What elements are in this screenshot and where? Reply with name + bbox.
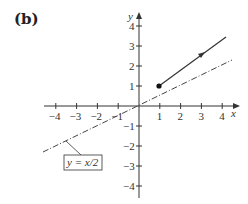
y-tick-label: −3 [123,160,135,172]
annotation-text: y = x/2 [66,156,99,168]
y-tick-label: −1 [123,120,135,132]
x-tick-label: 3 [198,110,204,122]
x-tick-label: −2 [90,110,102,122]
y-tick-label: −2 [123,140,135,152]
x-tick-label: 4 [219,110,225,122]
x-tick-label: −3 [70,110,82,122]
start-point-dot [156,83,161,88]
x-tick-label: 2 [178,110,184,122]
y-tick-label: −4 [123,180,135,192]
y-tick-label: 4 [129,20,135,32]
x-tick-label: 1 [157,110,163,122]
annotation-leader-line [66,141,81,155]
chart: x y −4−3−2−11234 4321−1−2−3−4 y = x/2 [0,0,248,204]
x-tick-label: −4 [49,110,61,122]
y-tick-label: 1 [129,80,135,92]
y-axis-arrow-icon [136,12,142,19]
y-tick-label: 3 [129,40,135,52]
x-axis-label: x [230,107,236,119]
series-ray [159,37,226,86]
y-tick-label: 2 [129,60,135,72]
